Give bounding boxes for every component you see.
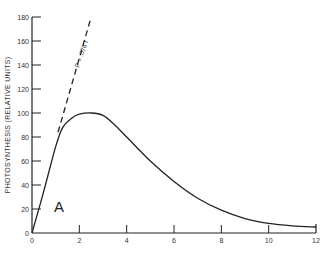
slope-annotation: P = .076 I	[73, 39, 89, 68]
svg-text:0: 0	[25, 230, 29, 237]
y-ticks: 020406080100120140160180	[17, 14, 41, 237]
photosynthesis-curve	[32, 113, 316, 233]
x-ticks: 024681012	[30, 225, 320, 244]
svg-text:100: 100	[17, 110, 29, 117]
svg-text:180: 180	[17, 14, 29, 21]
svg-text:120: 120	[17, 86, 29, 93]
svg-text:160: 160	[17, 38, 29, 45]
svg-text:8: 8	[219, 237, 223, 244]
chart: 020406080100120140160180 024681012 PHOTO…	[0, 0, 330, 260]
svg-text:6: 6	[172, 237, 176, 244]
svg-text:2: 2	[77, 237, 81, 244]
y-axis-label: PHOTOSYNTHESIS (RELATIVE UNITS)	[4, 57, 12, 194]
svg-text:40: 40	[21, 182, 29, 189]
svg-text:10: 10	[265, 237, 273, 244]
svg-text:80: 80	[21, 134, 29, 141]
svg-text:60: 60	[21, 158, 29, 165]
initial-slope-line	[58, 17, 91, 132]
svg-text:20: 20	[21, 206, 29, 213]
svg-text:4: 4	[125, 237, 129, 244]
svg-text:0: 0	[30, 237, 34, 244]
panel-label: A	[54, 198, 64, 215]
svg-text:140: 140	[17, 62, 29, 69]
svg-text:12: 12	[312, 237, 320, 244]
